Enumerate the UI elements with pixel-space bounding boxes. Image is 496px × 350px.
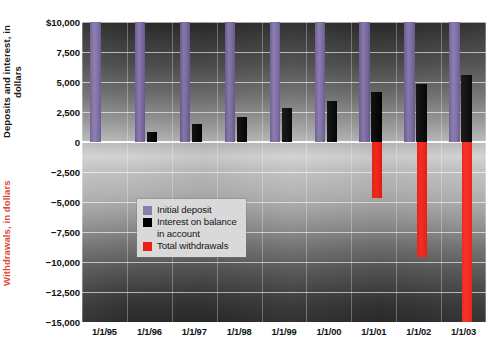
plot-area	[82, 22, 486, 322]
x-tick-label: 1/1/95	[92, 326, 117, 337]
x-tick-label: 1/1/99	[272, 326, 297, 337]
bar-interest-1-1-99	[282, 108, 293, 142]
x-tick-label: 1/1/96	[137, 326, 162, 337]
legend-item-deposit: Initial deposit	[143, 204, 237, 215]
y-axis-tick-labels: $10,0007,5005,0002,5000−2,500−5,000−7,50…	[20, 0, 80, 350]
y-tick-label: 5,000	[22, 77, 80, 88]
y-tick-label: $10,000	[22, 17, 80, 28]
gridline-vertical	[485, 22, 486, 322]
legend-item-interest: Interest on balance in account	[143, 216, 237, 239]
legend-swatch-deposit-icon	[143, 206, 152, 215]
gridline-vertical	[441, 22, 442, 322]
bar-deposit-1-1-02	[404, 22, 415, 142]
legend-label: Interest on balance in account	[157, 216, 237, 239]
gridline-vertical	[306, 22, 307, 322]
bar-deposit-1-1-01	[359, 22, 370, 142]
gridline-vertical	[127, 22, 128, 322]
y-tick-label: 2,500	[22, 107, 80, 118]
bar-deposit-1-1-95	[90, 22, 101, 142]
gridline-vertical	[217, 22, 218, 322]
y-axis-title-withdrawals: Withdrawals, in dollars	[2, 158, 18, 308]
bar-interest-1-1-03	[461, 75, 472, 142]
gridline-vertical	[262, 22, 263, 322]
gridline-vertical	[82, 22, 83, 322]
x-tick-label: 1/1/98	[227, 326, 252, 337]
bar-deposit-1-1-98	[225, 22, 236, 142]
y-tick-label: 7,500	[22, 47, 80, 58]
bar-interest-1-1-96	[147, 132, 158, 142]
bar-deposit-1-1-96	[135, 22, 146, 142]
bar-deposit-1-1-03	[449, 22, 460, 142]
legend-label: Initial deposit	[157, 204, 212, 215]
legend-swatch-interest-icon	[143, 218, 152, 227]
bar-interest-1-1-01	[371, 92, 382, 142]
y-tick-label: −2,500	[22, 167, 80, 178]
chart-legend: Initial depositInterest on balance in ac…	[137, 199, 246, 257]
bar-deposit-1-1-00	[315, 22, 326, 142]
x-tick-label: 1/1/97	[182, 326, 207, 337]
chart-figure: Deposits and interest, in dollars Withdr…	[0, 0, 496, 350]
y-tick-label: −10,000	[22, 257, 80, 268]
gridline-vertical	[172, 22, 173, 322]
gridline-horizontal	[82, 292, 486, 293]
x-tick-label: 1/1/02	[406, 326, 431, 337]
bar-withdrawal-1-1-03	[462, 142, 473, 322]
x-axis-tick-labels: 1/1/951/1/961/1/971/1/981/1/991/1/001/1/…	[82, 326, 486, 346]
bar-deposit-1-1-99	[270, 22, 281, 142]
legend-swatch-withdrawal-icon	[143, 242, 152, 251]
bar-withdrawal-1-1-01	[372, 142, 383, 198]
y-tick-label: −5,000	[22, 197, 80, 208]
y-tick-label: −12,500	[22, 287, 80, 298]
bar-interest-1-1-00	[327, 101, 338, 142]
bar-interest-1-1-97	[192, 124, 203, 142]
legend-label: Total withdrawals	[157, 240, 228, 251]
bar-interest-1-1-98	[237, 117, 248, 142]
y-tick-label: 0	[22, 137, 80, 148]
legend-item-withdrawal: Total withdrawals	[143, 240, 237, 251]
bar-interest-1-1-02	[416, 84, 427, 142]
x-tick-label: 1/1/00	[316, 326, 341, 337]
gridline-horizontal	[82, 262, 486, 263]
bar-withdrawal-1-1-02	[417, 142, 428, 257]
x-tick-label: 1/1/01	[361, 326, 386, 337]
y-tick-label: −15,000	[22, 317, 80, 328]
y-tick-label: −7,500	[22, 227, 80, 238]
gridline-vertical	[351, 22, 352, 322]
gridline-vertical	[396, 22, 397, 322]
bar-deposit-1-1-97	[180, 22, 191, 142]
x-tick-label: 1/1/03	[451, 326, 476, 337]
